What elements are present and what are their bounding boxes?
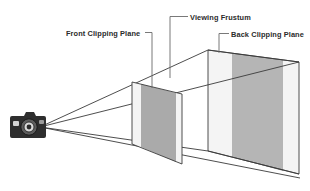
front-clipping-plane — [132, 82, 182, 164]
label-front-clipping-plane: Front Clipping Plane — [66, 29, 140, 38]
camera-lens-inner — [27, 125, 32, 130]
label-viewing-frustum: Viewing Frustum — [190, 13, 251, 22]
front-plane-shaded-band — [141, 84, 176, 162]
leader-back-clipping-plane — [219, 34, 229, 54]
camera-icon — [10, 112, 46, 138]
frustum-diagram: Front Clipping Plane Viewing Frustum Bac… — [0, 0, 310, 191]
camera-flash — [13, 121, 19, 126]
label-back-clipping-plane: Back Clipping Plane — [231, 30, 304, 39]
camera-shutter-button — [39, 120, 44, 124]
ray-bottom-left — [40, 127, 208, 151]
